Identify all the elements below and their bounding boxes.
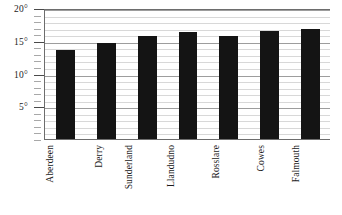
gridline [45,23,330,24]
y-axis-minor-tick [34,29,41,30]
y-axis-minor-tick [34,101,41,102]
x-axis-label-text: Aberdeen [46,145,56,183]
gridline [45,10,330,11]
y-axis-tick-label: 15° [14,37,28,47]
y-axis-major-tick [34,75,44,76]
x-axis-tick-label: Aberdeen [44,141,85,215]
x-axis-label-text: Llandudno [166,145,176,187]
y-axis-minor-tick [34,88,41,89]
y-axis-minor-tick [34,16,41,17]
y-axis-tick-label: 10° [14,70,28,80]
y-axis-minor-tick [34,114,41,115]
x-axis-tick-label: Sunderland [126,141,167,215]
x-axis-label-text: Falmouth [291,145,301,182]
y-axis-minor-tick [34,120,41,121]
x-axis-tick-label: Rosslare [207,141,248,215]
x-axis-label-text: Derry [94,145,104,168]
bar [138,36,157,139]
y-axis-minor-tick [34,94,41,95]
y-axis-major-tick [34,107,44,108]
y-axis-labels: 5°10°15°20° [0,0,34,145]
y-axis-minor-tick [34,55,41,56]
plot-area [44,9,330,140]
x-axis-tick-label: Derry [85,141,126,215]
gridline [45,17,330,18]
x-axis-tick-label: Llandudno [167,141,208,215]
y-axis-major-tick [34,9,44,10]
x-axis-tick-label: Cowes [248,141,289,215]
y-axis-minor-tick [34,35,41,36]
bar-chart: 5°10°15°20° AberdeenDerrySunderlandLland… [0,0,342,215]
x-axis-label-text: Cowes [256,145,266,171]
y-axis-tick-label: 5° [19,102,28,112]
bar [97,43,116,139]
y-axis-minor-tick [34,22,41,23]
x-axis-label-text: Rosslare [211,145,221,179]
y-axis-minor-tick [34,61,41,62]
y-axis-minor-tick [34,81,41,82]
x-axis-tick-label: Falmouth [289,141,330,215]
y-axis-minor-tick [34,133,41,134]
y-axis-ticks [34,9,44,140]
bar [179,32,198,139]
y-axis-minor-tick [34,127,41,128]
bar [260,31,279,139]
y-axis-minor-tick [34,48,41,49]
bar [56,50,75,139]
gridline [45,30,330,31]
bar [301,29,320,139]
y-axis-minor-tick [34,140,41,141]
x-axis-label-text: Sunderland [124,145,134,189]
x-axis-labels: AberdeenDerrySunderlandLlandudnoRosslare… [44,141,330,215]
y-axis-major-tick [34,42,44,43]
bar [219,36,238,139]
y-axis-minor-tick [34,68,41,69]
y-axis-tick-label: 20° [14,4,28,14]
